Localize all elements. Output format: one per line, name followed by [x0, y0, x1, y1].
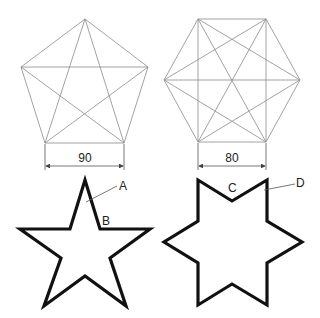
- hexagon-dimension: 80: [198, 143, 266, 170]
- label-d: D: [296, 176, 305, 190]
- hexagon-construction: [164, 19, 300, 142]
- label-a: A: [119, 179, 127, 193]
- pentagon-construction: [21, 19, 148, 143]
- label-c: C: [228, 181, 237, 195]
- hexagram-outline: C D: [164, 176, 305, 305]
- pentagon-dimension: 90: [45, 144, 124, 170]
- pentagon-dimension-label: 90: [78, 151, 92, 165]
- label-b: B: [102, 214, 110, 228]
- hexagon-dimension-label: 80: [225, 151, 239, 165]
- pentagram-outline: A B: [20, 179, 150, 306]
- geometry-diagram: 90 80 A B C D: [0, 0, 320, 318]
